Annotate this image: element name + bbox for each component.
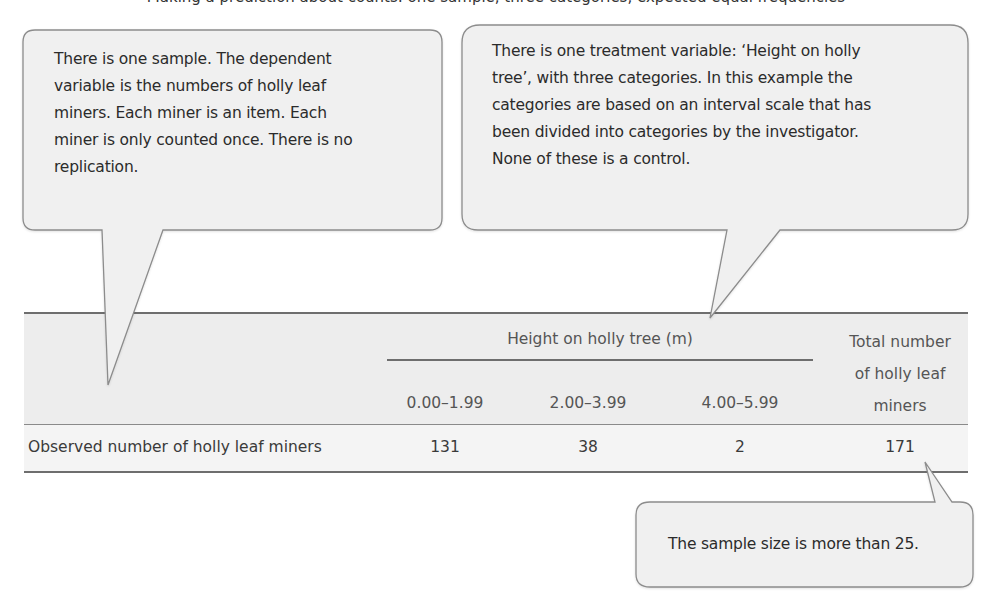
callout-treatment: There is one treatment variable: ‘Height…: [492, 38, 871, 173]
column-header: 0.00–1.99: [405, 394, 485, 412]
group-header-rule: [387, 359, 813, 361]
total-column-header: Total number of holly leaf miners: [830, 326, 970, 422]
callout-sample-size: The sample size is more than 25.: [668, 531, 919, 558]
column-header: 2.00–3.99: [548, 394, 628, 412]
total-header-line: miners: [830, 390, 970, 422]
callout-line: categories are based on an interval scal…: [492, 92, 871, 119]
callout-line: variable is the numbers of holly leaf: [54, 73, 352, 100]
callout-sample-size-shape: [636, 462, 973, 587]
callout-line: tree’, with three categories. In this ex…: [492, 65, 871, 92]
callout-line: There is one treatment variable: ‘Height…: [492, 38, 871, 65]
callout-line: miner is only counted once. There is no: [54, 127, 352, 154]
column-header: 4.00–5.99: [700, 394, 780, 412]
cell-value: 2: [700, 438, 780, 456]
total-header-line: of holly leaf: [830, 358, 970, 390]
cell-value: 38: [548, 438, 628, 456]
callout-line: There is one sample. The dependent: [54, 46, 352, 73]
callout-line: miners. Each miner is an item. Each: [54, 100, 352, 127]
callout-line: replication.: [54, 154, 352, 181]
total-header-line: Total number: [830, 326, 970, 358]
cell-value: 131: [405, 438, 485, 456]
group-header: Height on holly tree (m): [387, 330, 813, 348]
callout-line: The sample size is more than 25.: [668, 531, 919, 558]
cell-total: 171: [860, 438, 940, 456]
callout-line: None of these is a control.: [492, 146, 871, 173]
row-label: Observed number of holly leaf miners: [28, 438, 322, 456]
callout-line: been divided into categories by the inve…: [492, 119, 871, 146]
callout-sample: There is one sample. The dependent varia…: [54, 46, 352, 181]
